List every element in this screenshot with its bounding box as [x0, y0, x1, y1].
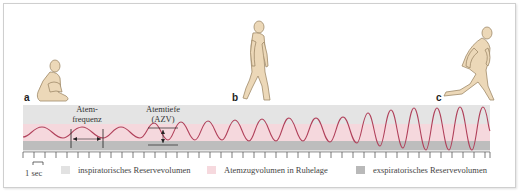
legend-item-inspiratory: inspiratorisches Reservevolumen: [61, 165, 191, 175]
expiratory-reserve-band: [23, 141, 490, 150]
legend-item-expiratory: exspiratorisches Reservevolumen: [356, 165, 487, 175]
frequency-annotation: Atem- frequenz: [62, 104, 112, 124]
time-axis-ticks: [23, 152, 490, 158]
one-second-scale-bracket: [33, 162, 43, 165]
legend-swatch-tidal: [207, 166, 216, 174]
legend-item-tidal: Atemzugvolumen in Ruhelage: [207, 165, 328, 175]
depth-annotation: Atemtiefe (AZV): [138, 104, 188, 124]
scale-label: 1 sec: [25, 168, 42, 178]
legend-swatch-inspiratory: [61, 166, 70, 174]
legend-swatch-expiratory: [356, 166, 365, 174]
